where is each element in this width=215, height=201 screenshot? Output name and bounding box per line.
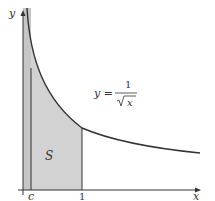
equation-label: y = 1 x	[93, 79, 137, 108]
x-axis-label: x	[193, 190, 200, 201]
equation-denominator: x	[127, 97, 133, 108]
region-label-s: S	[45, 149, 53, 163]
equation-lhs: y =	[93, 87, 113, 100]
equation-numerator: 1	[125, 79, 131, 90]
y-axis-label: y	[8, 7, 16, 20]
tick-label-c: c	[28, 190, 34, 201]
improper-integral-diagram: y x c 1 S y = 1 x	[0, 0, 215, 201]
tick-label-1: 1	[79, 191, 85, 201]
